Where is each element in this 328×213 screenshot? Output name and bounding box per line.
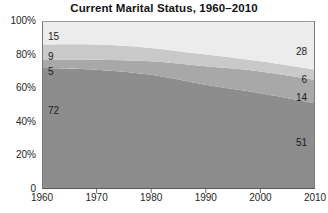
x-tick-label-1990: 1990 [186,193,226,203]
plot-area: 15 9 5 72 28 6 14 51 [42,21,315,189]
x-tick-label-2010: 2010 [295,193,328,203]
data-label-married-end: 51 [296,138,307,148]
chart-title: Current Marital Status, 1960–2010 [0,2,328,14]
y-tick-label-20: 20% [2,150,36,160]
x-tick-label-1980: 1980 [131,193,171,203]
data-label-never-married-start: 15 [48,32,59,42]
y-tick-label-40: 40% [2,117,36,127]
y-tick-label-100: 100% [2,16,36,26]
x-tick-label-1970: 1970 [77,193,117,203]
data-label-never-married-end: 28 [296,47,307,57]
data-label-widowed-end: 6 [301,75,307,85]
data-label-divorced-start: 5 [48,67,54,77]
y-tick-label-80: 80% [2,50,36,60]
x-tick-label-2000: 2000 [240,193,280,203]
data-label-divorced-end: 14 [296,93,307,103]
stacked-area-plot [42,21,315,194]
x-tick-label-1960: 1960 [22,193,62,203]
data-label-widowed-start: 9 [48,52,54,62]
y-axis: 100% 80% 60% 40% 20% 0 [0,21,36,189]
chart-container: Current Marital Status, 1960–2010 100% 8… [0,0,328,213]
data-label-married-start: 72 [48,106,59,116]
y-tick-label-60: 60% [2,83,36,93]
x-axis: 1960 1970 1980 1990 2000 2010 [42,193,315,207]
area-bands [42,21,315,189]
